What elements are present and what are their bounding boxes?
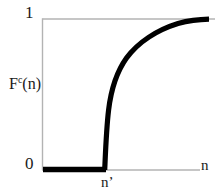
curve-rising-branch [105,19,209,170]
y-axis-min-label: 0 [25,155,34,172]
threshold-label: n’ [101,175,114,190]
y-axis-title-argument: (n) [22,75,41,92]
y-axis-title-base: F [9,75,18,92]
y-axis-max-label: 1 [25,4,34,21]
figure-container: 1 0 Fc(n) n n’ [0,0,221,195]
y-axis-title: Fc(n) [9,76,41,92]
x-axis-title: n [201,158,209,173]
